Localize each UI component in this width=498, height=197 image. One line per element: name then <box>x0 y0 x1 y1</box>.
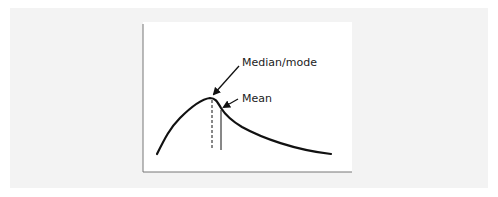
distribution-curve <box>157 98 331 154</box>
median-mode-label: Median/mode <box>242 56 317 69</box>
median-mode-arrow <box>214 66 239 94</box>
mean-label: Mean <box>242 92 272 105</box>
skewed-distribution-diagram: Median/mode Mean <box>0 0 498 197</box>
mean-arrow <box>224 99 238 107</box>
